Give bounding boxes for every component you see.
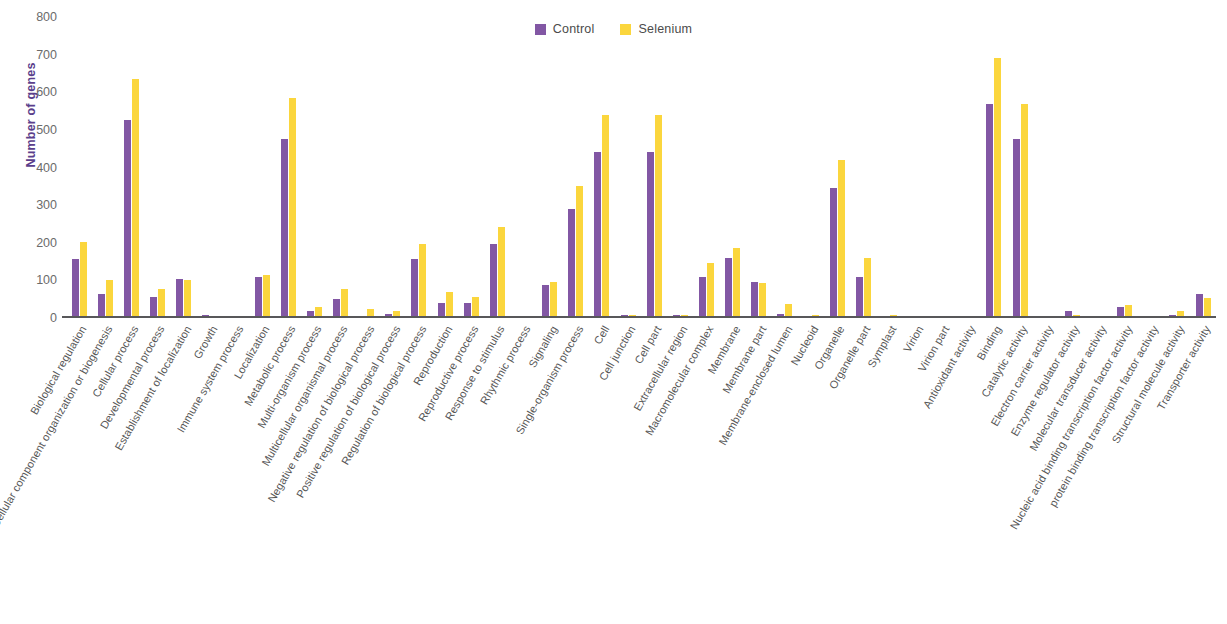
bar-groups <box>66 17 1216 318</box>
bar-selenium <box>994 58 1001 318</box>
bar-selenium <box>1021 104 1028 318</box>
bar-group <box>1007 17 1033 318</box>
y-axis-tick-label: 100 <box>36 273 57 287</box>
bar-selenium <box>80 242 87 318</box>
bar-control <box>411 259 418 318</box>
x-axis-category-label: Cellular component organization or bioge… <box>0 324 115 529</box>
x-axis-label-cell: Cell junction <box>615 322 641 622</box>
plot-area: 0100200300400500600700800 <box>66 17 1216 318</box>
bar-group <box>197 17 223 318</box>
bar-group <box>824 17 850 318</box>
bar-group <box>798 17 824 318</box>
bar-group <box>667 17 693 318</box>
bar-group <box>118 17 144 318</box>
bar-selenium <box>419 244 426 318</box>
bar-selenium <box>759 283 766 318</box>
bar-selenium <box>498 227 505 318</box>
bar-group <box>275 17 301 318</box>
bar-group <box>929 17 955 318</box>
bar-selenium <box>184 280 191 318</box>
x-axis-label-cell: Antioxidant activity <box>955 322 981 622</box>
bar-group <box>772 17 798 318</box>
bar-control <box>830 188 837 318</box>
bar-control <box>568 209 575 318</box>
y-axis-tick-label: 500 <box>36 123 57 137</box>
bar-group <box>641 17 667 318</box>
bar-group <box>746 17 772 318</box>
bar-group <box>563 17 589 318</box>
bar-selenium <box>341 289 348 318</box>
bar-group <box>589 17 615 318</box>
y-axis-tick-label: 600 <box>36 85 57 99</box>
gene-ontology-bar-chart: ControlSelenium Number of genes 01002003… <box>0 0 1227 624</box>
bar-selenium <box>576 186 583 318</box>
bar-control <box>699 277 706 318</box>
bar-group <box>327 17 353 318</box>
bar-selenium <box>132 79 139 318</box>
bar-selenium <box>733 248 740 318</box>
bar-group <box>301 17 327 318</box>
bar-group <box>537 17 563 318</box>
bar-control <box>124 120 131 318</box>
bar-selenium <box>602 115 609 318</box>
bar-control <box>72 259 79 318</box>
y-axis-tick-label: 200 <box>36 236 57 250</box>
y-axis-tick-label: 0 <box>50 311 57 325</box>
bar-selenium <box>707 263 714 318</box>
bar-control <box>490 244 497 318</box>
x-axis-label-cell: Transporter activity <box>1190 322 1216 622</box>
bar-group <box>249 17 275 318</box>
x-axis-label-cell: Membrane-enclosed lumen <box>772 322 798 622</box>
x-axis-label-cell: Establishment of localization <box>171 322 197 622</box>
bar-group <box>955 17 981 318</box>
bar-group <box>1033 17 1059 318</box>
bar-group <box>144 17 170 318</box>
bar-control <box>1196 294 1203 318</box>
bar-control <box>856 277 863 318</box>
x-axis-label-cell: Symplast <box>876 322 902 622</box>
bar-group <box>615 17 641 318</box>
bar-group <box>720 17 746 318</box>
bar-group <box>432 17 458 318</box>
bar-control <box>751 282 758 318</box>
bar-group <box>981 17 1007 318</box>
bar-group <box>484 17 510 318</box>
bar-control <box>150 297 157 318</box>
bar-selenium <box>106 280 113 318</box>
bar-selenium <box>864 258 871 318</box>
bar-group <box>406 17 432 318</box>
bar-group <box>1190 17 1216 318</box>
bar-selenium <box>263 275 270 318</box>
bar-selenium <box>655 115 662 318</box>
y-axis-tick-label: 400 <box>36 161 57 175</box>
bar-selenium <box>446 292 453 318</box>
bar-group <box>903 17 929 318</box>
bar-selenium <box>838 160 845 318</box>
bar-group <box>693 17 719 318</box>
bar-control <box>986 104 993 318</box>
bar-selenium <box>550 282 557 318</box>
bar-control <box>594 152 601 318</box>
bar-group <box>510 17 536 318</box>
bar-group <box>1164 17 1190 318</box>
y-axis-tick-label: 300 <box>36 198 57 212</box>
bar-group <box>380 17 406 318</box>
bar-selenium <box>472 297 479 318</box>
bar-control <box>281 139 288 318</box>
bar-control <box>255 277 262 318</box>
bar-control <box>647 152 654 318</box>
bar-group <box>66 17 92 318</box>
bar-control <box>176 279 183 318</box>
bar-control <box>1013 139 1020 318</box>
bar-group <box>850 17 876 318</box>
bar-group <box>1059 17 1085 318</box>
bar-group <box>223 17 249 318</box>
bar-group <box>876 17 902 318</box>
x-axis-line <box>62 316 1216 318</box>
x-axis-category-labels: Biological regulationCellular component … <box>66 322 1216 622</box>
bar-group <box>92 17 118 318</box>
bar-group <box>354 17 380 318</box>
bar-group <box>458 17 484 318</box>
y-axis-tick-label: 700 <box>36 48 57 62</box>
bar-group <box>1138 17 1164 318</box>
